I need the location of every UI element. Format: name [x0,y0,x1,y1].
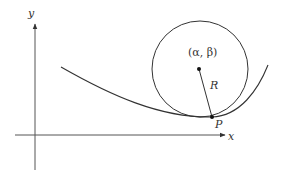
point-label: P [214,118,223,131]
osculating-circle-diagram: (α, β) R P x y [0,0,282,174]
center-point [197,67,201,71]
y-axis-label: y [27,7,35,20]
center-label: (α, β) [188,46,217,59]
x-axis-label: x [228,130,235,143]
point-p [210,115,214,119]
radius-label: R [209,79,218,92]
radius-line [199,69,212,117]
curve [61,65,268,117]
